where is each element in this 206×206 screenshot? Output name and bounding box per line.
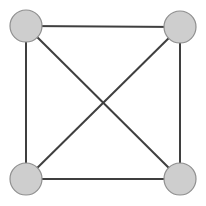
node-circle-bottom-left [10,163,42,195]
graph-node-bottom-right [164,163,196,195]
node-circle-top-right [164,11,196,43]
node-circle-bottom-right [164,163,196,195]
graph-node-bottom-left [10,163,42,195]
graph-node-top-right [164,11,196,43]
graph-node-top-left [10,10,42,42]
graph-edge-top-edge [26,26,180,27]
graph-diagram [0,0,206,206]
node-circle-top-left [10,10,42,42]
edge-layer [26,26,180,179]
graph-canvas [0,0,206,206]
